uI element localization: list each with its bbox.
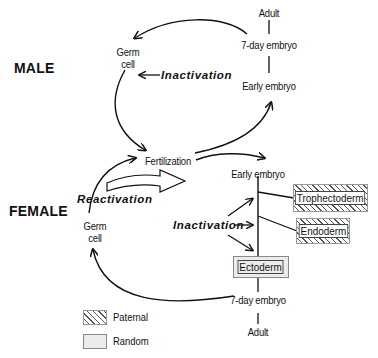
legend-random-swatch: [83, 334, 107, 349]
female-inactivation-label: Inactivation: [173, 219, 244, 231]
trophectoderm-box: Trophectoderm: [293, 184, 368, 212]
x-inactivation-diagram: MALE Germ cell Inactivation Adult 7-day …: [0, 0, 378, 358]
reactivation-label: Reactivation: [77, 193, 153, 205]
male-inactivation-label: Inactivation: [161, 69, 232, 81]
male-germ-cell: Germ cell: [112, 46, 144, 70]
male-7-day-embryo: 7-day embryo: [238, 39, 301, 51]
trophectoderm-label: Trophectoderm: [295, 191, 365, 205]
female-early-embryo: Early embryo: [226, 168, 291, 180]
legend-paternal-swatch: [83, 310, 107, 325]
female-label: FEMALE: [9, 203, 68, 219]
male-adult: Adult: [247, 7, 292, 19]
endoderm-box: Endoderm: [296, 218, 350, 244]
fertilization-label: Fertilization: [145, 155, 191, 167]
male-label: MALE: [14, 60, 54, 76]
female-7-day-embryo: 7-day embryo: [226, 294, 291, 306]
endoderm-label: Endoderm: [298, 224, 347, 238]
female-germ-cell: Germ cell: [79, 220, 111, 244]
female-adult: Adult: [236, 326, 281, 338]
legend-paternal-label: Paternal: [113, 311, 148, 323]
ectoderm-box: Ectoderm: [233, 256, 289, 278]
connector-lines: [0, 0, 378, 358]
male-early-embryo: Early embryo: [238, 80, 301, 92]
ectoderm-label: Ectoderm: [238, 260, 284, 274]
legend-random-label: Random: [113, 335, 149, 347]
